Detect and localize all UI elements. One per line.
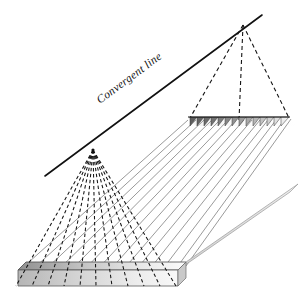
near-slab-group (18, 184, 298, 286)
apex-dashed-group (190, 25, 289, 120)
convergent-line-label: Convergent line (94, 50, 164, 107)
apex-dashed-center-axis (239, 25, 243, 120)
solid-ray (58, 120, 212, 270)
solid-ray (123, 120, 252, 270)
apex-dashed-left-edge (190, 25, 243, 118)
left-focus-point (91, 148, 94, 151)
apex-dashed-right-edge (243, 25, 289, 118)
solid-ray (20, 120, 188, 270)
diagram-canvas: Convergent line (0, 0, 306, 296)
solid-ray (45, 120, 204, 270)
solid-ray (32, 120, 196, 270)
solid-ray (175, 120, 284, 270)
near-slab-front-face (18, 270, 178, 286)
solid-ray (186, 119, 291, 266)
convergent-line (45, 15, 262, 176)
near-slab-top-face (18, 262, 186, 270)
convergent-line-diagram: Convergent line (0, 0, 306, 296)
solid-ray (162, 120, 276, 270)
convergent-line-label-text: Convergent line (94, 50, 164, 107)
